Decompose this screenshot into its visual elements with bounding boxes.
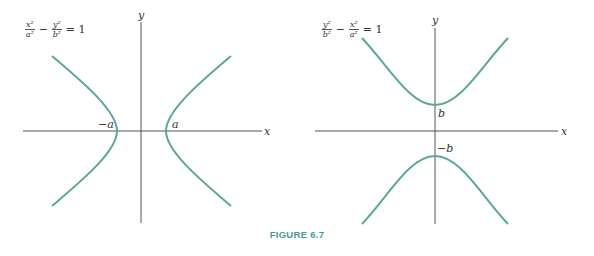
fraction: x² a² (25, 20, 35, 39)
fraction: x² a² (349, 20, 359, 39)
hyperbola-figure: y x −a a y x b −b (0, 0, 594, 256)
fraction: y² b² (322, 20, 332, 39)
right-hyperbola-equation: y² b² − x² a² = 1 (322, 20, 382, 39)
left-vertex-neg-a: −a (98, 118, 114, 131)
right-vertex-neg-b: −b (437, 142, 453, 155)
right-y-axis-label: y (431, 14, 439, 27)
left-x-axis-label: x (264, 125, 271, 138)
left-hyperbola-equation: x² a² − y² b² = 1 (25, 20, 85, 39)
right-x-axis-label: x (561, 125, 568, 138)
left-y-axis-label: y (137, 9, 145, 22)
right-vertex-pos-b: b (438, 107, 445, 120)
left-vertex-pos-a: a (172, 118, 179, 131)
figure-caption: FIGURE 6.7 (0, 229, 594, 240)
fraction: y² b² (52, 20, 62, 39)
